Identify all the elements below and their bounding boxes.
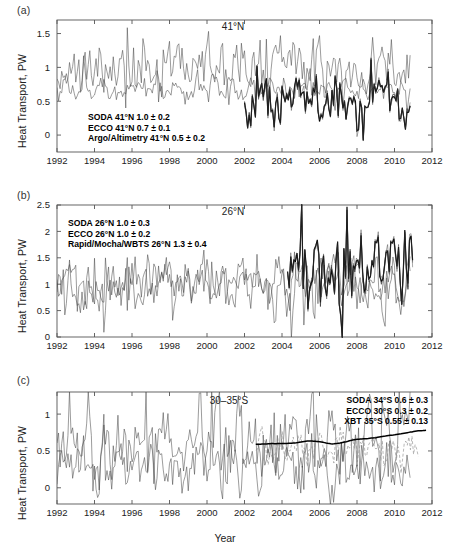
svg-text:2: 2 (45, 226, 50, 237)
svg-text:1992: 1992 (46, 340, 67, 351)
panel-b-legend-line: SODA 26°N 1.0 ± 0.3 (68, 218, 150, 228)
svg-text:0.5: 0.5 (37, 305, 50, 316)
svg-text:2008: 2008 (346, 155, 367, 166)
panel-b-plot: 00.511.522.51992199419961998200020022004… (0, 185, 450, 370)
panel-a-legend-line: ECCO 41°N 0.7 ± 0.1 (88, 123, 170, 133)
svg-text:2000: 2000 (196, 507, 217, 518)
panel-a-title: 41°N (222, 21, 244, 32)
panel-c-legend-line: XBT 35°S 0.55 ± 0.13 (344, 416, 428, 426)
panel-a-plot: 00.511.519921994199619982000200220042006… (0, 0, 450, 185)
panel-b-title: 26°N (222, 206, 244, 217)
panel-c: (c) Heat Transport, PW 00.51199219941996… (0, 370, 450, 560)
svg-text:1.5: 1.5 (37, 252, 50, 263)
svg-text:1994: 1994 (84, 155, 105, 166)
svg-text:2000: 2000 (196, 155, 217, 166)
svg-text:0: 0 (45, 129, 50, 140)
svg-text:1: 1 (45, 279, 50, 290)
svg-text:1: 1 (45, 62, 50, 73)
svg-text:1992: 1992 (46, 155, 67, 166)
figure-container: (a) Heat Transport, PW 00.511.5199219941… (0, 0, 450, 560)
svg-text:2012: 2012 (421, 155, 442, 166)
svg-text:0: 0 (45, 482, 50, 493)
svg-text:0.5: 0.5 (37, 445, 50, 456)
panel-a-legend-line: SODA 41°N 1.0 ± 0.2 (88, 112, 170, 122)
svg-text:2002: 2002 (234, 155, 255, 166)
panel-b-legend-line: Rapid/Mocha/WBTS 26°N 1.3 ± 0.4 (68, 239, 207, 249)
svg-text:1996: 1996 (121, 507, 142, 518)
svg-text:2010: 2010 (384, 340, 405, 351)
svg-text:2010: 2010 (384, 507, 405, 518)
svg-text:1996: 1996 (121, 340, 142, 351)
panel-a: (a) Heat Transport, PW 00.511.5199219941… (0, 0, 450, 185)
svg-text:2008: 2008 (346, 507, 367, 518)
svg-text:1998: 1998 (159, 507, 180, 518)
svg-text:2008: 2008 (346, 340, 367, 351)
svg-text:1996: 1996 (121, 155, 142, 166)
svg-text:1998: 1998 (159, 340, 180, 351)
svg-text:1994: 1994 (84, 340, 105, 351)
panel-b-legend-line: ECCO 26°N 1.0 ± 0.2 (68, 229, 150, 239)
svg-text:1998: 1998 (159, 155, 180, 166)
svg-text:0.5: 0.5 (37, 96, 50, 107)
figure-xlabel: Year (0, 532, 450, 544)
svg-text:2012: 2012 (421, 340, 442, 351)
svg-text:2.5: 2.5 (37, 199, 50, 210)
svg-text:2012: 2012 (421, 507, 442, 518)
svg-text:1994: 1994 (84, 507, 105, 518)
panel-a-legend-line: Argo/Altimetry 41°N 0.5 ± 0.2 (88, 133, 205, 143)
panel-b: (b) Heat Transport, PW 00.511.522.519921… (0, 185, 450, 370)
panel-c-legend-line: SODA 34°S 0.6 ± 0.3 (347, 395, 429, 405)
panel-c-legend-line: ECCO 30°S 0.3 ± 0.2 (346, 406, 428, 416)
svg-text:2000: 2000 (196, 340, 217, 351)
svg-text:2006: 2006 (309, 155, 330, 166)
svg-text:2002: 2002 (234, 340, 255, 351)
svg-text:2004: 2004 (271, 507, 292, 518)
panel-c-plot: 00.5119921994199619982000200220042006200… (0, 370, 450, 532)
svg-text:1.5: 1.5 (37, 28, 50, 39)
svg-text:1: 1 (45, 409, 50, 420)
svg-text:2010: 2010 (384, 155, 405, 166)
svg-text:2004: 2004 (271, 340, 292, 351)
svg-text:1992: 1992 (46, 507, 67, 518)
svg-text:2004: 2004 (271, 155, 292, 166)
svg-text:2002: 2002 (234, 507, 255, 518)
panel-c-title: 30–35°S (210, 395, 249, 406)
svg-text:2006: 2006 (309, 340, 330, 351)
svg-text:2006: 2006 (309, 507, 330, 518)
